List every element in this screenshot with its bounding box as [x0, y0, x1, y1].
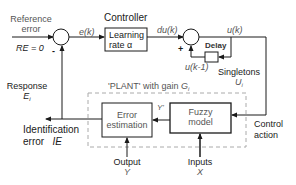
delay-box [205, 52, 218, 62]
summing-junction-2 [183, 29, 199, 45]
u-prev-signal-label: u(k-1) [185, 62, 209, 72]
plus-sign: + [178, 44, 183, 54]
controller-title: Controller [104, 13, 147, 23]
du-signal-label: du(k) [157, 25, 178, 35]
response-label: Response Ei [4, 81, 50, 104]
controller-text: Learning rate α [105, 30, 151, 50]
delay-label: Delay [205, 41, 226, 51]
y-prime-label: Y' [157, 103, 164, 113]
control-action-label: Control action [254, 119, 283, 141]
singletons-label: Singletons Ui [214, 67, 264, 90]
error-estimation-text: Error estimation [102, 110, 152, 130]
reference-value: RE = 0 [16, 43, 44, 53]
minus-sign: - [52, 46, 55, 56]
summing-junction-1 [53, 29, 69, 45]
reference-error-label: Reference error [8, 14, 54, 34]
plant-label: 'PLANT' with gain Gi [108, 81, 189, 94]
error-signal-label: e(k) [79, 27, 95, 37]
output-label: Output Y [107, 157, 147, 177]
u-signal-label: u(k) [227, 25, 243, 35]
inputs-label: Inputs X [180, 157, 220, 177]
identification-error-label: Identification error IE [23, 124, 79, 148]
fuzzy-model-text: Fuzzy model [170, 107, 231, 127]
